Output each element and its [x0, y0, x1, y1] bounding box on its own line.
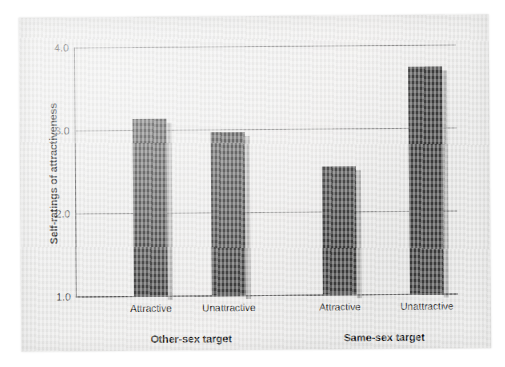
group-label-other-sex: Other-sex target [151, 332, 232, 345]
y-tick-label-1: 1.0 [56, 290, 71, 302]
x-tick-label-1: Unattractive [202, 302, 255, 313]
y-tick-label-3: 3.0 [55, 124, 70, 136]
bar-2 [322, 166, 357, 295]
plot-area: 4.0 3.0 2.0 1.0 Attractive Unattractive … [74, 44, 458, 297]
bar-1 [211, 132, 246, 296]
x-tick-label-2: Attractive [319, 301, 361, 312]
x-tick-label-0: Attractive [130, 303, 172, 314]
bar-chart-figure: Self-ratings of attractiveness 4.0 3.0 2… [19, 14, 492, 352]
bar-3 [408, 67, 444, 294]
scanned-page: Self-ratings of attractiveness 4.0 3.0 2… [19, 14, 492, 352]
gridline-4: 4.0 [74, 44, 456, 48]
y-tick-label-4: 4.0 [54, 41, 69, 53]
x-tick-label-3: Unattractive [400, 300, 453, 311]
y-axis-label: Self-ratings of attractiveness [46, 89, 59, 259]
group-label-same-sex: Same-sex target [344, 331, 425, 344]
y-axis-line [74, 47, 77, 297]
y-tick-label-2: 2.0 [56, 207, 71, 219]
bar-0 [132, 119, 167, 296]
